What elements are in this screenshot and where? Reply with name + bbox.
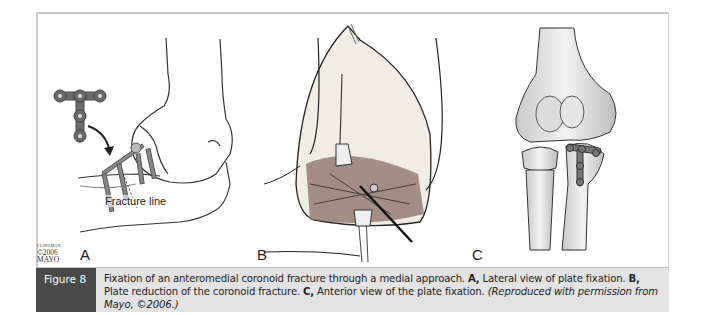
panel-b-label: B <box>257 246 267 263</box>
panel-b-illustration <box>240 14 470 266</box>
figure-number-tag: Figure 8 <box>36 268 96 312</box>
surgical-exposure-drawing <box>240 14 470 266</box>
panel-c-label: C <box>472 246 483 263</box>
panel-c-illustration <box>470 14 669 266</box>
figure-caption: Figure 8 Fixation of an anteromedial cor… <box>36 267 669 312</box>
lateral-elbow-plate-drawing <box>40 14 240 266</box>
caption-text: Fixation of an anteromedial coronoid fra… <box>96 268 669 312</box>
panel-a-illustration: Fracture line <box>40 14 240 266</box>
anterior-elbow-plate-drawing <box>470 14 669 266</box>
copyright-mark: CLINGMAN ©2006 MAYO <box>37 242 61 263</box>
fracture-line-annotation: Fracture line <box>105 195 166 207</box>
panel-a-label: A <box>80 246 90 263</box>
